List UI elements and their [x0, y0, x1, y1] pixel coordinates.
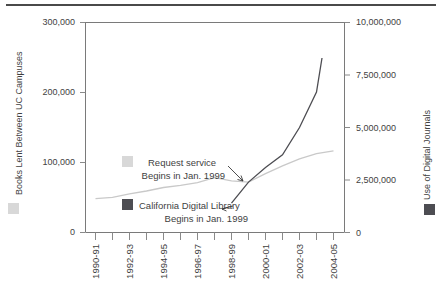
left-tick-label-0: 0	[70, 227, 75, 237]
x-tick-label-1990-91: 1990-91	[90, 244, 101, 279]
right-axis-title: Use of Digital Journals	[422, 109, 432, 200]
left-axis-title-group: Books Lent Between UC Campuses	[8, 51, 24, 214]
dual-axis-line-chart: 300,000 200,000 100,000 0 10,000,000 7,5…	[0, 0, 442, 287]
right-tick-label-0: 0	[356, 228, 361, 238]
left-tick-label-200000: 200,000	[42, 87, 75, 97]
right-tick-label-10000000: 10,000,000	[356, 17, 401, 27]
annotation-request-leader-line	[228, 166, 243, 181]
legend-swatch-dark-icon	[424, 204, 435, 215]
x-tick-label-2002-03: 2002-03	[294, 244, 305, 279]
x-tick-label-1994-95: 1994-95	[158, 244, 169, 279]
annotation-request-line1: Request service	[148, 157, 216, 168]
annotation-swatch-light-icon	[122, 156, 133, 167]
x-tick-label-1996-97: 1996-97	[192, 244, 203, 279]
right-axis-title-group: Use of Digital Journals	[422, 109, 435, 215]
annotation-swatch-dark-icon	[122, 199, 133, 210]
right-tick-label-2500000: 2,500,000	[356, 175, 396, 185]
annotation-request-line2: Begins in Jan. 1999	[142, 170, 225, 181]
annotation-request-service: Request service Begins in Jan. 1999	[122, 156, 243, 181]
chart-figure: 300,000 200,000 100,000 0 10,000,000 7,5…	[0, 0, 442, 287]
x-axis: 1990-91 1992-93 1994-95 1996-97 1998-99 …	[86, 233, 345, 279]
x-tick-label-2004-05: 2004-05	[328, 244, 339, 279]
annotation-california-digital-library: California Digital Library Begins in Jan…	[122, 199, 248, 224]
left-axis: 300,000 200,000 100,000 0	[42, 17, 85, 237]
x-tick-label-2000-01: 2000-01	[260, 244, 271, 279]
left-axis-title: Books Lent Between UC Campuses	[14, 51, 24, 195]
x-tick-label-1998-99: 1998-99	[226, 244, 237, 279]
annotation-cdl-line2: Begins in Jan. 1999	[165, 213, 248, 224]
left-tick-label-100000: 100,000	[42, 157, 75, 167]
right-axis: 10,000,000 7,500,000 5,000,000 2,500,000…	[345, 17, 402, 238]
right-tick-label-7500000: 7,500,000	[356, 70, 396, 80]
legend-swatch-light-icon	[8, 203, 19, 214]
right-tick-label-5000000: 5,000,000	[356, 123, 396, 133]
x-tick-label-1992-93: 1992-93	[124, 244, 135, 279]
left-tick-label-300000: 300,000	[42, 17, 75, 27]
annotation-cdl-line1: California Digital Library	[139, 200, 240, 211]
